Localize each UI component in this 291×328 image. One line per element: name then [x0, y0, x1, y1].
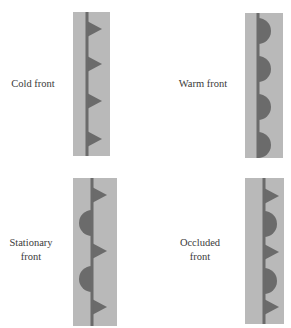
label-line: Cold front — [4, 77, 62, 91]
front-line — [86, 12, 89, 156]
label-line: front — [2, 250, 60, 264]
weather-fronts-diagram — [0, 0, 291, 328]
warm-front-symbol — [245, 13, 283, 158]
front-line — [257, 13, 260, 158]
occluded-front-symbol — [245, 178, 284, 324]
occluded-front-label: Occluded front — [170, 236, 230, 264]
label-line: Stationary — [2, 236, 60, 250]
label-line: front — [170, 250, 230, 264]
stationary-front-label: Stationary front — [2, 236, 60, 264]
cold-front-label: Cold front — [4, 77, 62, 91]
front-line — [91, 178, 94, 326]
cold-front-symbol — [73, 12, 110, 156]
label-line: Warm front — [172, 77, 234, 91]
front-line — [263, 178, 266, 324]
stationary-front-symbol — [73, 178, 117, 326]
label-line: Occluded — [170, 236, 230, 250]
warm-front-label: Warm front — [172, 77, 234, 91]
